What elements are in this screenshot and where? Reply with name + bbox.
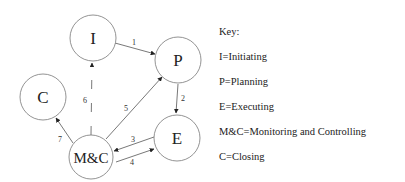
- node-label-i: I: [90, 29, 96, 48]
- legend-item-planning: P=Planning: [219, 69, 366, 94]
- node-initiating: I: [70, 15, 116, 61]
- edge-4-mc-to-e: 4: [116, 149, 154, 167]
- legend-item-initiating: I=Initiating: [219, 44, 366, 69]
- node-executing: E: [154, 115, 200, 161]
- edge-7-mc-to-c: 7: [56, 118, 73, 144]
- legend-title: Key:: [219, 19, 366, 44]
- node-monitoring-controlling: M&C: [69, 135, 113, 179]
- process-flow-diagram: 1 2 3 4 5 6 7 I P C E M&C: [0, 0, 220, 182]
- node-closing: C: [20, 74, 66, 120]
- edge-label-3: 3: [131, 135, 135, 144]
- node-label-e: E: [172, 129, 182, 148]
- legend-item-monitoring-controlling: M&C=Monitoring and Controlling: [219, 119, 366, 144]
- node-label-p: P: [173, 51, 182, 70]
- node-label-mc: M&C: [73, 150, 108, 166]
- legend-item-closing: C=Closing: [219, 144, 366, 169]
- edge-5-mc-to-p: 5: [106, 77, 162, 139]
- edge-label-2: 2: [181, 94, 185, 103]
- edge-label-4: 4: [130, 158, 134, 167]
- edge-label-7: 7: [58, 135, 62, 144]
- edge-6-mc-to-i-dashed: 6: [83, 63, 92, 135]
- legend-key: Key: I=Initiating P=Planning E=Executing…: [219, 19, 366, 169]
- legend-item-executing: E=Executing: [219, 94, 366, 119]
- edge-label-5: 5: [124, 104, 128, 113]
- node-planning: P: [155, 37, 201, 83]
- node-label-c: C: [37, 88, 48, 107]
- edge-label-1: 1: [132, 38, 136, 47]
- edge-1-i-to-p: 1: [115, 38, 155, 54]
- edge-label-6: 6: [83, 96, 87, 105]
- edge-3-e-to-mc: 3: [114, 135, 154, 151]
- edge-2-p-to-e: 2: [176, 84, 185, 113]
